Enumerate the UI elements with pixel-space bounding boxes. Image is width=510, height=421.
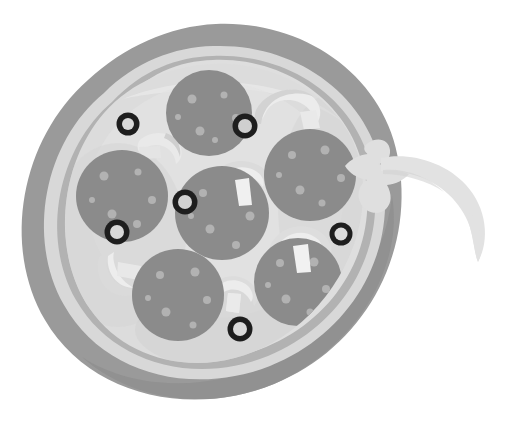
illustration-canvas: Whole pepperoni pizza with cheese pull xyxy=(0,0,510,421)
pizza-illustration: Whole pepperoni pizza with cheese pull xyxy=(0,0,510,421)
olive-bottom xyxy=(228,317,253,342)
pepperoni-top xyxy=(166,70,252,156)
olive-left xyxy=(105,220,130,245)
olive-right xyxy=(330,223,353,246)
olive-upper-left xyxy=(117,113,140,136)
mushroom-bottom-center-stem-overlay xyxy=(226,293,241,313)
pepperoni-right xyxy=(264,129,356,221)
olive-upper-right xyxy=(233,114,258,139)
pepperoni-bottom-left xyxy=(132,249,224,341)
olive-center xyxy=(173,190,198,215)
